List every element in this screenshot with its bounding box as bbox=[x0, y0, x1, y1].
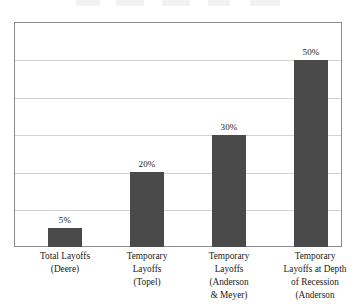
category-label-3-line-3: (Anderson bbox=[185, 276, 273, 289]
category-label-2-line-3: (Topel) bbox=[103, 276, 191, 289]
category-label-4-line-4: (Anderson bbox=[265, 289, 357, 302]
category-label-3: Temporary Layoffs (Anderson & Meyer) bbox=[185, 250, 273, 302]
category-label-1-line-1: Total Layoffs bbox=[21, 250, 109, 263]
scan-artifact-top bbox=[70, 0, 290, 6]
category-label-2-line-1: Temporary bbox=[103, 250, 191, 263]
category-label-4-line-1: Temporary bbox=[265, 250, 357, 263]
gridline-20 bbox=[15, 173, 341, 174]
category-label-3-line-4: & Meyer) bbox=[185, 289, 273, 302]
category-label-4-line-2: Layoffs at Depth bbox=[265, 263, 357, 276]
category-axis-labels: Total Layoffs (Deere) Temporary Layoffs … bbox=[14, 250, 342, 304]
gridline-30 bbox=[15, 135, 341, 136]
category-label-3-line-2: Layoffs bbox=[185, 263, 273, 276]
gridline-50 bbox=[15, 60, 341, 61]
category-label-4: Temporary Layoffs at Depth of Recession … bbox=[265, 250, 357, 302]
category-label-2-line-2: Layoffs bbox=[103, 263, 191, 276]
bar-chart: 5% 20% 30% 50% Total Layoffs (Deere) Tem… bbox=[0, 0, 357, 304]
category-label-1-line-2: (Deere) bbox=[21, 263, 109, 276]
category-label-4-line-3: of Recession bbox=[265, 276, 357, 289]
category-label-2: Temporary Layoffs (Topel) bbox=[103, 250, 191, 289]
gridline-40 bbox=[15, 98, 341, 99]
category-label-1: Total Layoffs (Deere) bbox=[21, 250, 109, 276]
plot-area bbox=[14, 22, 342, 247]
gridline-10 bbox=[15, 210, 341, 211]
category-label-3-line-1: Temporary bbox=[185, 250, 273, 263]
gridlines bbox=[15, 23, 341, 246]
